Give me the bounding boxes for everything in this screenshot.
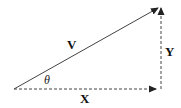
vector-v-arrow [14, 8, 158, 89]
vector-v-label: V [67, 37, 77, 52]
vector-diagram: V X Y θ [0, 0, 181, 108]
y-component-label: Y [165, 44, 175, 59]
angle-theta-label: θ [44, 73, 50, 87]
x-component-label: X [80, 91, 90, 106]
